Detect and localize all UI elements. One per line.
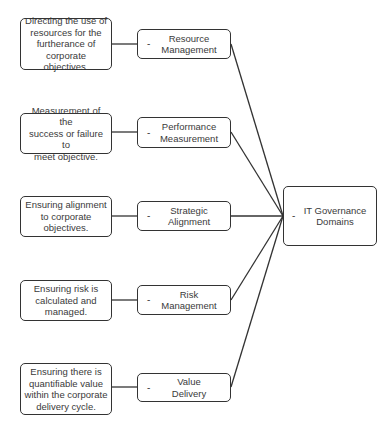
node-root-it-governance-domains[interactable]: - IT GovernanceDomains: [283, 186, 377, 246]
description-strategic-alignment: Ensuring alignment to corporate objectiv…: [20, 196, 112, 237]
collapse-toggle[interactable]: -: [147, 210, 150, 222]
collapse-toggle[interactable]: -: [292, 210, 295, 222]
connector-root-3: [231, 216, 283, 300]
connector-root-4: [231, 216, 283, 387]
node-value-delivery[interactable]: - ValueDelivery: [137, 373, 231, 402]
description-text: Ensuring risk is calculated and managed.: [34, 283, 98, 318]
node-label: StrategicAlignment: [158, 205, 210, 228]
node-strategic-alignment[interactable]: - StrategicAlignment: [137, 201, 231, 231]
node-resource-management[interactable]: - ResourceManagement: [137, 29, 231, 59]
collapse-toggle[interactable]: -: [147, 126, 150, 138]
description-text: Measurement of the success or failure to…: [24, 105, 108, 163]
connector-root-1: [231, 132, 283, 216]
node-label: ResourceManagement: [151, 33, 216, 56]
node-label: PerformanceMeasurement: [150, 121, 218, 144]
root-label: IT GovernanceDomains: [294, 205, 367, 228]
connector-root-0: [231, 44, 283, 216]
collapse-toggle[interactable]: -: [147, 294, 150, 306]
description-text: Directing the use of resources for the f…: [24, 15, 108, 73]
node-label: RiskManagement: [151, 289, 216, 312]
node-risk-management[interactable]: - RiskManagement: [137, 285, 231, 315]
node-label: ValueDelivery: [162, 376, 206, 399]
description-text: Ensuring alignment to corporate objectiv…: [25, 199, 106, 234]
description-resource-management: Directing the use of resources for the f…: [20, 18, 112, 70]
node-performance-measurement[interactable]: - PerformanceMeasurement: [137, 117, 231, 148]
collapse-toggle[interactable]: -: [147, 381, 150, 393]
collapse-toggle[interactable]: -: [147, 38, 150, 50]
description-text: Ensuring there is quantifiable value wit…: [25, 366, 108, 412]
description-value-delivery: Ensuring there is quantifiable value wit…: [20, 363, 112, 415]
description-risk-management: Ensuring risk is calculated and managed.: [20, 280, 112, 321]
description-performance-measurement: Measurement of the success or failure to…: [20, 113, 112, 154]
